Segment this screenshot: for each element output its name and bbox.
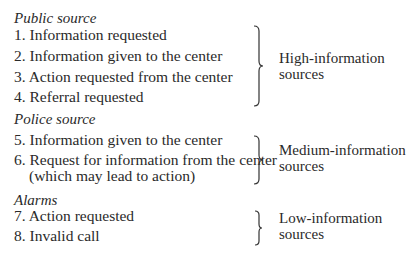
list-item: 4. Referral requested — [14, 89, 144, 105]
group-heading-police-source: Police source — [14, 111, 96, 127]
list-item: 1. Information requested — [14, 27, 167, 43]
category-label-high-line2: sources — [279, 66, 324, 83]
category-label-high: High-information — [279, 50, 385, 67]
list-item: 5. Information given to the center — [14, 132, 222, 148]
curly-brace-icon — [253, 25, 265, 107]
list-item: 8. Invalid call — [14, 228, 100, 244]
category-label-low-line2: sources — [279, 226, 324, 243]
list-item: 7. Action requested — [14, 208, 134, 224]
curly-brace-icon — [253, 135, 265, 185]
list-item-continuation: (which may lead to action) — [29, 168, 195, 184]
curly-brace-icon — [254, 210, 264, 246]
category-label-medium: Medium-information — [279, 142, 406, 159]
list-item: 2. Information given to the center — [14, 48, 222, 64]
category-label-medium-line2: sources — [279, 158, 324, 175]
group-heading-alarms: Alarms — [14, 192, 57, 208]
category-label-low: Low-information — [279, 210, 382, 227]
group-heading-public-source: Public source — [14, 10, 96, 26]
list-item: 6. Request for information from the cent… — [14, 152, 277, 168]
list-item: 3. Action requested from the center — [14, 69, 233, 85]
